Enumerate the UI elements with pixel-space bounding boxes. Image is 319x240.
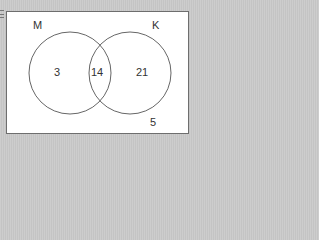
set-label-k: K xyxy=(152,20,159,31)
set-label-m: M xyxy=(33,20,42,31)
region-intersection: 14 xyxy=(91,67,103,78)
region-m-only: 3 xyxy=(54,67,60,78)
region-outside: 5 xyxy=(150,117,156,128)
region-k-only: 21 xyxy=(136,67,148,78)
